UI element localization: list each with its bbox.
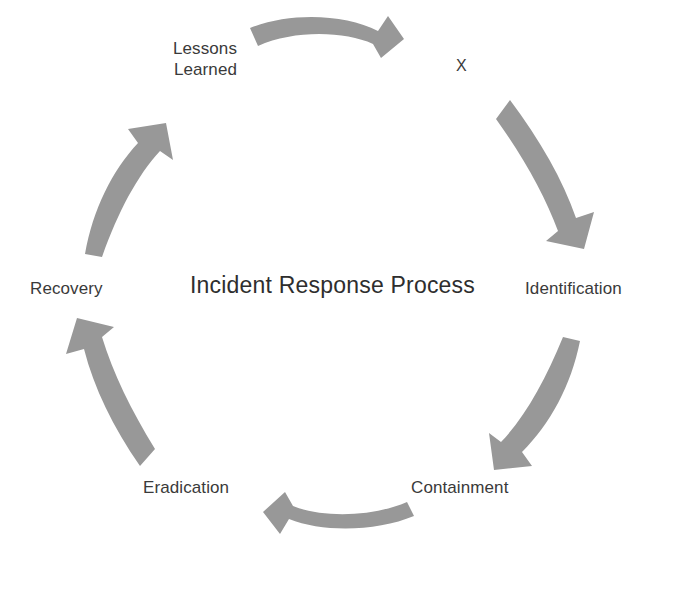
arrow-upper-right-down-icon [496,100,594,249]
arrow-lower-right-downleft-icon [489,337,580,470]
diagram-canvas: Lessons Learned X Identification Recover… [0,0,681,591]
stage-label-identification: Identification [525,278,622,299]
arrow-lower-left-up-icon [66,318,155,466]
stage-label-containment: Containment [411,477,509,498]
arrow-top-right-icon [250,16,404,58]
stage-label-lessons-learned: Lessons Learned [151,38,237,80]
diagram-title: Incident Response Process [190,272,475,299]
stage-label-eradication: Eradication [143,477,229,498]
arrow-upper-left-upright-icon [85,123,173,257]
arrow-bottom-left-icon [263,492,414,534]
marker-x-label: X [456,55,467,76]
stage-label-recovery: Recovery [30,278,103,299]
